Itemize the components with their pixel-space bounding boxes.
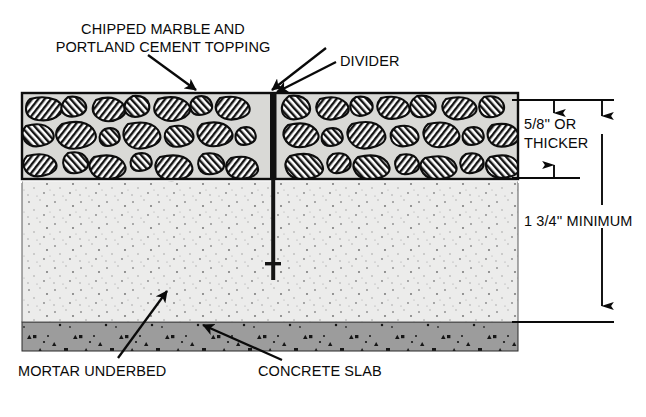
diagram-canvas: CHIPPED MARBLE AND PORTLAND CEMENT TOPPI… [0, 0, 646, 417]
label-concrete-slab: CONCRETE SLAB [258, 362, 382, 380]
dim-topping-line1: 5/8'' OR [524, 116, 576, 132]
label-mortar-underbed: MORTAR UNDERBED [18, 362, 166, 380]
layer-concrete-slab [22, 322, 518, 351]
label-dimension-topping: 5/8'' OR THICKER [524, 115, 610, 153]
label-topping: CHIPPED MARBLE AND PORTLAND CEMENT TOPPI… [18, 20, 308, 56]
label-topping-line2: PORTLAND CEMENT TOPPING [56, 39, 271, 55]
section-drawing [0, 0, 646, 417]
layer-mortar-underbed [22, 180, 518, 322]
dim-topping-line2: THICKER [524, 135, 588, 151]
label-dimension-total: 1 3/4'' MINIMUM [524, 212, 633, 230]
label-topping-line1: CHIPPED MARBLE AND [81, 21, 245, 37]
label-divider: DIVIDER [340, 52, 400, 70]
